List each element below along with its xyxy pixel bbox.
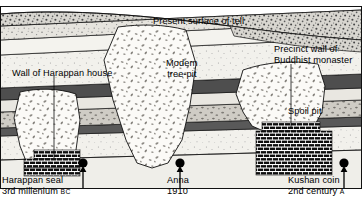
label-harappan-seal: Harappan seal 3rd millenium BC [2,175,71,197]
label-kushan-coin: Kushan coin 2nd century A [288,175,345,197]
figure-canvas: Present surface of tell Modern tree-pit … [0,0,362,202]
label-harappan-seal-line1: Harappan seal [2,175,71,186]
label-anna-line2: 1910 [167,186,189,198]
stratigraphic-section-svg [0,0,362,202]
label-harappan-seal-era: BC [61,188,71,195]
label-kushan-coin-line1: Kushan coin [288,175,345,186]
label-modern-tree-pit-line2: tree-pit [166,69,198,80]
label-present-surface: Present surface of tell [153,16,244,27]
label-precinct-wall: Precinct wall of Buddhist monaster [274,44,352,65]
label-modern-tree-pit-line1: Modern [166,58,198,69]
label-harappan-seal-line2: 3rd millenium BC [2,186,71,198]
label-anna-line1: Anna [167,175,189,186]
section-body [0,0,362,202]
label-harappan-seal-date: 3rd millenium [2,186,61,196]
label-wall-of-harappan-house: Wall of Harappan house [12,68,112,79]
label-kushan-coin-date: 2nd century [288,186,340,196]
label-anna: Anna 1910 [167,175,189,197]
label-kushan-coin-era: A [340,188,345,195]
label-kushan-coin-line2: 2nd century A [288,186,345,198]
label-modern-tree-pit: Modern tree-pit [166,58,198,79]
label-anna-date: 1910 [167,186,188,196]
label-precinct-wall-line2: Buddhist monaster [274,55,352,66]
label-precinct-wall-line1: Precinct wall of [274,44,352,55]
label-spoil-pit: Spoil pit [288,106,322,117]
